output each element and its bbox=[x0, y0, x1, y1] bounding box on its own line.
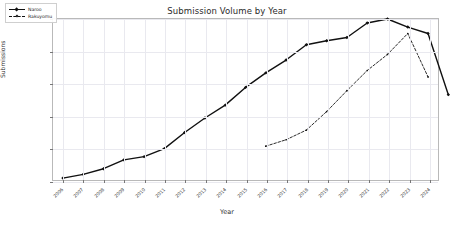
x-gridline bbox=[165, 19, 166, 180]
chart-title: Submission Volume by Year bbox=[0, 6, 454, 16]
plot-area: 0200004000060000800001000002006200720082… bbox=[52, 18, 439, 181]
x-tick-mark bbox=[145, 180, 146, 183]
x-gridline bbox=[185, 19, 186, 180]
x-tick-mark bbox=[389, 180, 390, 183]
x-tick-mark bbox=[410, 180, 411, 183]
x-tick-mark bbox=[267, 180, 268, 183]
x-tick-mark bbox=[124, 180, 125, 183]
data-point-marker bbox=[366, 70, 368, 72]
chart-legend: Naroo Rakuyomu bbox=[5, 3, 57, 23]
x-tick-label: 2023 bbox=[399, 187, 411, 199]
chart-container: Submission Volume by Year Submissions 02… bbox=[0, 0, 454, 228]
x-tick-label: 2015 bbox=[236, 187, 248, 199]
y-gridline bbox=[53, 52, 438, 53]
x-tick-mark bbox=[226, 180, 227, 183]
x-gridline bbox=[83, 19, 84, 180]
series-layer bbox=[53, 19, 438, 180]
x-tick-label: 2014 bbox=[216, 187, 228, 199]
x-gridline bbox=[369, 19, 370, 180]
x-tick-mark bbox=[328, 180, 329, 183]
y-gridline bbox=[53, 117, 438, 118]
y-gridline bbox=[53, 19, 438, 20]
x-gridline bbox=[267, 19, 268, 180]
x-tick-mark bbox=[287, 180, 288, 183]
x-tick-label: 2021 bbox=[358, 187, 370, 199]
x-tick-label: 2016 bbox=[256, 187, 268, 199]
legend-label: Rakuyomu bbox=[28, 14, 52, 19]
x-gridline bbox=[247, 19, 248, 180]
data-point-marker bbox=[447, 93, 450, 96]
x-tick-label: 2022 bbox=[379, 187, 391, 199]
x-tick-label: 2010 bbox=[134, 187, 146, 199]
x-tick-label: 2018 bbox=[297, 187, 309, 199]
x-tick-mark bbox=[165, 180, 166, 183]
legend-item-rakuyomu: Rakuyomu bbox=[9, 13, 52, 20]
x-tick-mark bbox=[104, 180, 105, 183]
x-gridline bbox=[287, 19, 288, 180]
x-tick-mark bbox=[348, 180, 349, 183]
y-tick-mark bbox=[50, 149, 53, 150]
x-tick-label: 2009 bbox=[114, 187, 126, 199]
legend-item-naroo: Naroo bbox=[9, 6, 52, 13]
x-gridline bbox=[124, 19, 125, 180]
x-gridline bbox=[206, 19, 207, 180]
data-point-marker bbox=[407, 33, 409, 35]
y-gridline bbox=[53, 182, 438, 183]
x-tick-label: 2020 bbox=[338, 187, 350, 199]
data-point-marker bbox=[387, 54, 389, 56]
x-gridline bbox=[328, 19, 329, 180]
data-point-marker bbox=[427, 76, 429, 78]
x-tick-label: 2024 bbox=[419, 187, 431, 199]
x-tick-label: 2017 bbox=[277, 187, 289, 199]
x-tick-label: 2012 bbox=[175, 187, 187, 199]
x-gridline bbox=[308, 19, 309, 180]
y-tick-mark bbox=[50, 182, 53, 183]
x-tick-mark bbox=[369, 180, 370, 183]
y-tick-mark bbox=[50, 117, 53, 118]
x-gridline bbox=[348, 19, 349, 180]
x-gridline bbox=[226, 19, 227, 180]
x-gridline bbox=[63, 19, 64, 180]
x-tick-label: 2019 bbox=[317, 187, 329, 199]
y-gridline bbox=[53, 149, 438, 150]
x-tick-label: 2008 bbox=[93, 187, 105, 199]
x-axis-label: Year bbox=[0, 208, 454, 216]
x-gridline bbox=[145, 19, 146, 180]
x-tick-label: 2006 bbox=[52, 187, 64, 199]
x-gridline bbox=[430, 19, 431, 180]
series-line-naroo bbox=[63, 19, 448, 178]
x-tick-mark bbox=[430, 180, 431, 183]
x-gridline bbox=[104, 19, 105, 180]
x-tick-mark bbox=[206, 180, 207, 183]
x-tick-label: 2011 bbox=[154, 187, 166, 199]
y-tick-mark bbox=[50, 84, 53, 85]
x-tick-mark bbox=[185, 180, 186, 183]
x-gridline bbox=[389, 19, 390, 180]
x-tick-label: 2007 bbox=[73, 187, 85, 199]
x-tick-mark bbox=[308, 180, 309, 183]
x-tick-label: 2013 bbox=[195, 187, 207, 199]
x-tick-mark bbox=[63, 180, 64, 183]
y-axis-label: Submissions bbox=[0, 41, 6, 78]
legend-swatch-solid-icon bbox=[9, 6, 25, 13]
y-tick-mark bbox=[50, 52, 53, 53]
x-tick-mark bbox=[83, 180, 84, 183]
x-gridline bbox=[410, 19, 411, 180]
y-gridline bbox=[53, 84, 438, 85]
legend-swatch-dashed-icon bbox=[9, 13, 25, 20]
legend-label: Naroo bbox=[28, 7, 42, 12]
x-tick-mark bbox=[247, 180, 248, 183]
